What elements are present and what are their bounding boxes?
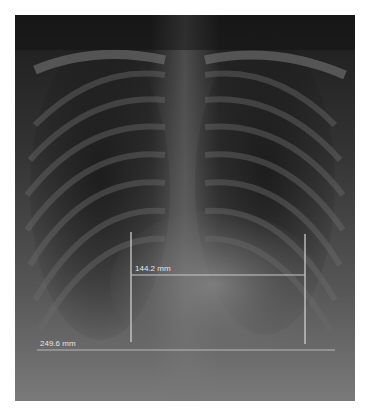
cardiac-width-label: 144.2 mm bbox=[135, 264, 171, 273]
thoracic-width-label: 249.6 mm bbox=[40, 339, 76, 348]
